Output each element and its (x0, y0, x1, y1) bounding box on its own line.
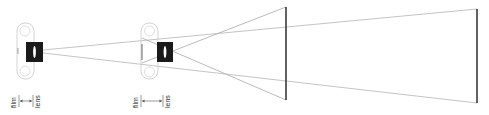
arrow-left-icon (142, 100, 145, 103)
projector-far (141, 23, 173, 79)
lens-label: lens (164, 95, 171, 108)
lens-label: lens (34, 95, 41, 108)
film-label: film (132, 97, 139, 108)
reel-bottom (20, 66, 30, 76)
projector-body-outline (141, 23, 158, 79)
projection-diagram: film lens film lens (0, 0, 489, 115)
dimension-projector-far: film lens (132, 95, 171, 108)
film-label: film (10, 97, 17, 108)
lens-icon (33, 46, 36, 58)
reel-bottom (145, 67, 155, 77)
reel-top (145, 26, 155, 36)
reel-top (20, 26, 30, 36)
ray-top (43, 9, 477, 50)
dimension-projector-near: film lens (10, 95, 41, 108)
ray-bottom (43, 53, 477, 103)
arrow-right-icon (30, 100, 33, 103)
lens-icon (164, 46, 167, 58)
arrow-left-icon (20, 100, 23, 103)
arrow-right-icon (160, 100, 163, 103)
projector-near (17, 23, 43, 79)
